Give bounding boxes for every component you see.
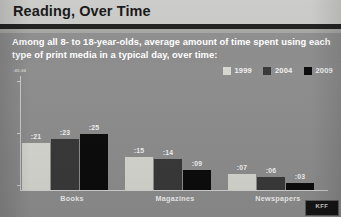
subtitle-band: Among all 8- to 18-year-olds, average am…: [0, 33, 341, 63]
bar-value-label: :06: [257, 167, 285, 174]
category-label-books: Books: [22, 194, 122, 203]
bar-books-2009: [80, 134, 108, 190]
bar-value-label: :09: [183, 160, 211, 167]
slide-header: Reading, Over Time: [0, 0, 341, 24]
chart-plot-area: :45:00 :21:23:25Books:15:14:09Magazines:…: [0, 63, 341, 217]
bar-group-books: :21:23:25Books: [22, 63, 122, 217]
bar-books-2004: [51, 139, 79, 190]
bar-newspapers-2004: [257, 177, 285, 190]
bar-value-label: :14: [154, 149, 182, 156]
bar-value-label: :21: [22, 133, 50, 140]
bar-group-magazines: :15:14:09Magazines: [125, 63, 225, 217]
bar-books-1999: [22, 143, 50, 190]
bar-value-label: :03: [286, 173, 314, 180]
y-axis-tick: [17, 81, 21, 82]
bar-newspapers-1999: [228, 174, 256, 190]
subtitle-text: Among all 8- to 18-year-olds, average am…: [12, 35, 334, 61]
y-axis-tick: [17, 185, 21, 186]
bar-value-label: :23: [51, 129, 79, 136]
category-label-magazines: Magazines: [125, 194, 225, 203]
kff-logo-text: KFF: [306, 203, 338, 209]
bar-magazines-1999: [125, 157, 153, 190]
page-title: Reading, Over Time: [13, 3, 151, 19]
kff-logo: KFF: [305, 200, 339, 216]
bar-magazines-2004: [154, 159, 182, 190]
y-axis-tick: [17, 133, 21, 134]
bar-value-label: :07: [228, 164, 256, 171]
bar-magazines-2009: [183, 170, 211, 190]
bar-value-label: :25: [80, 124, 108, 131]
bar-value-label: :15: [125, 147, 153, 154]
bar-newspapers-2009: [286, 183, 314, 190]
bar-group-newspapers: :07:06:03Newspapers: [228, 63, 328, 217]
slide: Reading, Over Time Among all 8- to 18-ye…: [0, 0, 341, 217]
